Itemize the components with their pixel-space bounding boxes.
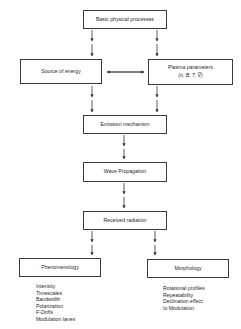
list-item: F-Drifts [36, 309, 75, 316]
node-sublabel: (n, B, T, V̅) [178, 72, 203, 80]
phenomenology-list: Intensity Timescales Bandwidth Polarizat… [36, 283, 75, 323]
node-received-radiation: Received radiation [83, 211, 167, 230]
node-emission-mechanism: Emission mechanism [83, 115, 167, 134]
node-basic-physical-processes: Basic physical processes [83, 10, 167, 29]
node-plasma-parameters: Plasma parameters (n, B, T, V̅) [148, 59, 233, 85]
node-label: Morphology [174, 265, 201, 273]
node-label: Source of energy [41, 68, 81, 76]
node-wave-propagation: Wave Propagation [83, 162, 167, 182]
list-item: Declination effect [163, 298, 205, 305]
node-label: Plasma parameters [168, 64, 213, 72]
morphology-list: Rotational profiles Repeatability Declin… [163, 285, 205, 311]
list-item: Repeatability [163, 292, 205, 299]
node-morphology: Morphology [147, 259, 229, 278]
node-label: Wave Propagation [104, 168, 147, 176]
list-item: Timescales [36, 290, 75, 297]
list-item: Rotational profiles [163, 285, 205, 292]
list-item: Intensity [36, 283, 75, 290]
list-item: Bandwidth [36, 296, 75, 303]
list-item: Polarization [36, 303, 75, 310]
node-phenomenology: Phenomenology [19, 258, 101, 277]
node-label: Basic physical processes [96, 16, 154, 24]
node-label: Received radiation [104, 217, 147, 225]
node-label: Emission mechanism [100, 121, 149, 129]
list-item: Io Modulation [163, 305, 205, 312]
node-source-of-energy: Source of energy [20, 59, 102, 84]
node-label: Phenomenology [41, 264, 79, 272]
list-item: Modulation lanes [36, 316, 75, 323]
